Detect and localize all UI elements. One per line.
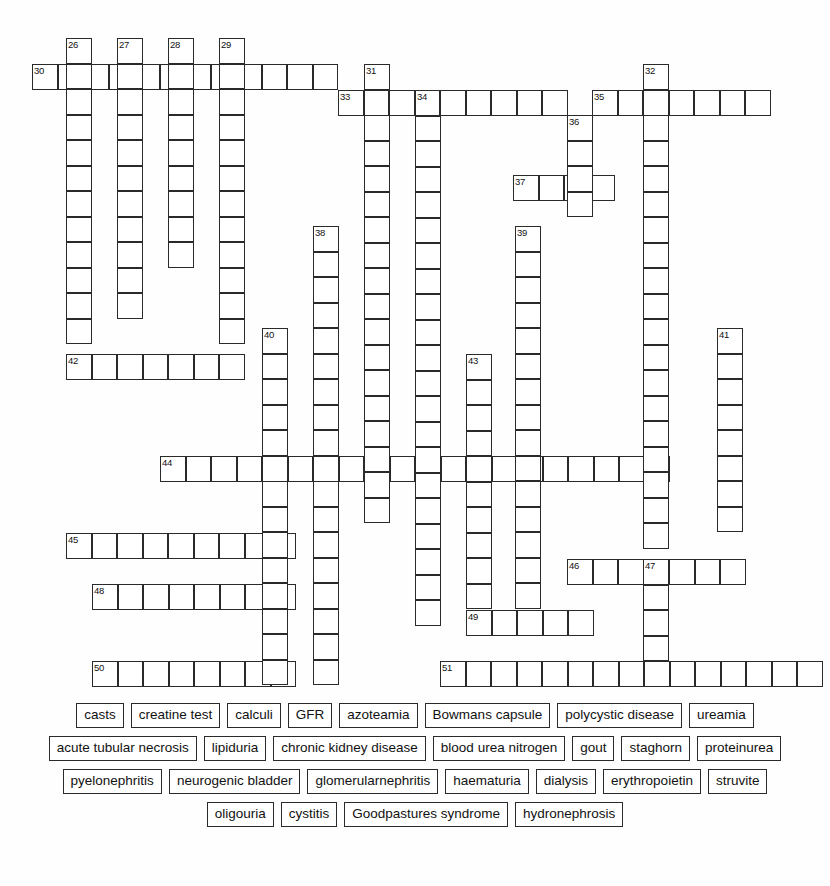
crossword-cell[interactable] [66, 319, 92, 345]
crossword-cell[interactable] [117, 191, 143, 217]
crossword-cell[interactable] [415, 396, 441, 422]
crossword-cell[interactable] [440, 90, 466, 116]
crossword-cell[interactable] [168, 354, 194, 380]
crossword-cell[interactable] [338, 90, 364, 116]
crossword-cell[interactable] [643, 217, 669, 243]
crossword-cell[interactable] [364, 370, 390, 396]
crossword-cell[interactable] [288, 456, 314, 482]
crossword-cell[interactable] [717, 456, 743, 482]
crossword-cell[interactable] [117, 64, 143, 90]
crossword-cell[interactable] [118, 584, 144, 610]
crossword-cell[interactable] [262, 660, 288, 686]
crossword-cell[interactable] [118, 661, 144, 687]
word-bank-item[interactable]: pyelonephritis [63, 769, 162, 794]
crossword-cell[interactable] [542, 661, 568, 687]
crossword-cell[interactable] [643, 243, 669, 269]
crossword-cell[interactable] [717, 481, 743, 507]
word-bank-item[interactable]: staghorn [621, 736, 690, 761]
crossword-cell[interactable] [466, 405, 492, 431]
crossword-cell[interactable] [515, 303, 541, 329]
crossword-cell[interactable] [168, 115, 194, 141]
crossword-cell[interactable] [643, 396, 669, 422]
crossword-cell[interactable] [262, 609, 288, 635]
crossword-cell[interactable] [66, 115, 92, 141]
crossword-cell[interactable] [515, 226, 541, 252]
crossword-cell[interactable] [364, 141, 390, 167]
crossword-cell[interactable] [643, 472, 669, 498]
crossword-cell[interactable] [415, 345, 441, 371]
crossword-cell[interactable] [515, 583, 541, 609]
crossword-cell[interactable] [219, 293, 245, 319]
crossword-cell[interactable] [117, 354, 143, 380]
crossword-cell[interactable] [117, 293, 143, 319]
crossword-cell[interactable] [364, 421, 390, 447]
crossword-cell[interactable] [491, 661, 517, 687]
crossword-cell[interactable] [515, 456, 541, 482]
crossword-cell[interactable] [66, 217, 92, 243]
crossword-cell[interactable] [168, 217, 194, 243]
crossword-cell[interactable] [745, 90, 771, 116]
crossword-cell[interactable] [117, 89, 143, 115]
crossword-cell[interactable] [364, 447, 390, 473]
crossword-cell[interactable] [492, 456, 518, 482]
crossword-cell[interactable] [593, 661, 619, 687]
crossword-cell[interactable] [169, 661, 195, 687]
crossword-cell[interactable] [219, 319, 245, 345]
crossword-cell[interactable] [720, 90, 746, 116]
crossword-cell[interactable] [717, 405, 743, 431]
crossword-cell[interactable] [517, 610, 543, 636]
crossword-cell[interactable] [143, 661, 169, 687]
crossword-cell[interactable] [219, 64, 245, 90]
crossword-cell[interactable] [643, 141, 669, 167]
crossword-cell[interactable] [567, 192, 593, 218]
word-bank-item[interactable]: neurogenic bladder [169, 769, 301, 794]
crossword-cell[interactable] [92, 661, 118, 687]
crossword-cell[interactable] [66, 533, 92, 559]
word-bank-item[interactable]: Goodpastures syndrome [344, 802, 508, 827]
crossword-cell[interactable] [313, 64, 339, 90]
crossword-cell[interactable] [117, 242, 143, 268]
crossword-cell[interactable] [643, 610, 669, 636]
crossword-cell[interactable] [643, 523, 669, 549]
crossword-cell[interactable] [618, 90, 644, 116]
word-bank-item[interactable]: erythropoietin [603, 769, 701, 794]
crossword-cell[interactable] [32, 64, 58, 90]
crossword-cell[interactable] [364, 396, 390, 422]
crossword-cell[interactable] [194, 533, 220, 559]
crossword-cell[interactable] [515, 354, 541, 380]
crossword-cell[interactable] [466, 558, 492, 584]
crossword-cell[interactable] [339, 456, 365, 482]
crossword-cell[interactable] [643, 64, 669, 90]
word-bank-item[interactable]: blood urea nitrogen [433, 736, 565, 761]
crossword-cell[interactable] [262, 456, 288, 482]
word-bank-item[interactable]: polycystic disease [557, 703, 682, 728]
crossword-cell[interactable] [66, 191, 92, 217]
crossword-cell[interactable] [66, 242, 92, 268]
crossword-cell[interactable] [746, 661, 772, 687]
crossword-cell[interactable] [515, 379, 541, 405]
crossword-cell[interactable] [313, 379, 339, 405]
crossword-cell[interactable] [262, 354, 288, 380]
crossword-cell[interactable] [364, 90, 390, 116]
crossword-cell[interactable] [168, 191, 194, 217]
crossword-cell[interactable] [466, 431, 492, 457]
crossword-cell[interactable] [313, 303, 339, 329]
crossword-cell[interactable] [568, 661, 594, 687]
crossword-cell[interactable] [220, 584, 246, 610]
crossword-cell[interactable] [313, 660, 339, 686]
crossword-cell[interactable] [619, 661, 645, 687]
crossword-cell[interactable] [415, 575, 441, 601]
crossword-cell[interactable] [237, 456, 263, 482]
crossword-cell[interactable] [517, 90, 543, 116]
crossword-cell[interactable] [364, 345, 390, 371]
crossword-cell[interactable] [66, 38, 92, 64]
crossword-cell[interactable] [219, 191, 245, 217]
crossword-cell[interactable] [517, 661, 543, 687]
word-bank-item[interactable]: chronic kidney disease [273, 736, 426, 761]
crossword-cell[interactable] [717, 430, 743, 456]
crossword-cell[interactable] [117, 140, 143, 166]
word-bank-item[interactable]: casts [76, 703, 124, 728]
crossword-cell[interactable] [643, 585, 669, 611]
crossword-cell[interactable] [219, 166, 245, 192]
crossword-cell[interactable] [670, 661, 696, 687]
